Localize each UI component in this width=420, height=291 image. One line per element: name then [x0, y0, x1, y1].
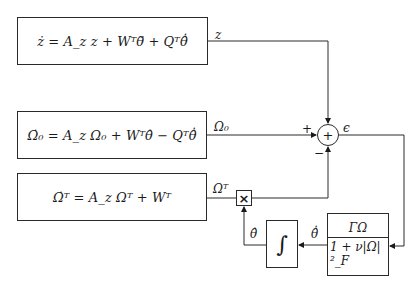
- multiplier-block: ×: [236, 190, 252, 206]
- gain-denominator: 1 + ν|Ω|²_F: [328, 237, 388, 268]
- gain-block: ΓΩ 1 + ν|Ω|²_F: [327, 213, 389, 276]
- gain-fraction: ΓΩ 1 + ν|Ω|²_F: [328, 221, 388, 268]
- signal-label-omega0: Ω₀: [214, 121, 229, 133]
- multiply-icon: ×: [239, 192, 250, 205]
- omega0-dynamics-block: Ω̇₀ = A_z Ω₀ + Wᵀθ̂ − Qᵀθ̂̇: [17, 111, 207, 159]
- signal-label-epsilon: ϵ: [343, 122, 350, 134]
- z-dynamics-equation: ż = A_z z + Wᵀθ̃ + Qᵀθ̂̇: [37, 34, 188, 49]
- signal-label-theta-hat-dot: θ̂̇: [311, 228, 318, 240]
- summing-junction: +: [317, 124, 339, 146]
- integral-symbol: ∫: [276, 232, 287, 257]
- integrator-block: ∫: [266, 220, 298, 268]
- signal-label-omegaT: Ωᵀ: [213, 183, 228, 195]
- gain-numerator: ΓΩ: [347, 221, 369, 237]
- signal-label-theta-hat: θ̂: [250, 228, 257, 240]
- omegaT-dynamics-equation: Ω̇ᵀ = A_z Ωᵀ + Wᵀ: [53, 190, 171, 205]
- z-dynamics-block: ż = A_z z + Wᵀθ̃ + Qᵀθ̂̇: [17, 17, 208, 65]
- plus-sign: +: [302, 123, 312, 135]
- minus-sign: −: [314, 147, 324, 159]
- omegaT-dynamics-block: Ω̇ᵀ = A_z Ωᵀ + Wᵀ: [17, 173, 207, 221]
- plus-icon: +: [323, 129, 334, 142]
- omega0-dynamics-equation: Ω̇₀ = A_z Ω₀ + Wᵀθ̂ − Qᵀθ̂̇: [27, 128, 196, 143]
- signal-label-z: z: [215, 29, 221, 41]
